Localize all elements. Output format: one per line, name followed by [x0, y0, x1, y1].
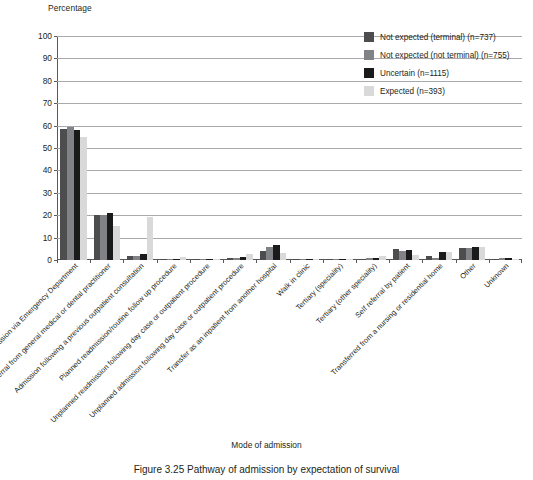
- bar: [479, 247, 486, 260]
- bar: [160, 259, 167, 260]
- bar: [379, 256, 386, 260]
- bar: [233, 258, 240, 260]
- bar: [333, 259, 340, 260]
- y-tick-label: 30: [43, 188, 52, 198]
- x-axis-title: Mode of admission: [0, 440, 533, 450]
- bar: [466, 248, 473, 260]
- bar: [406, 250, 413, 260]
- legend-item: Not expected (terminal) (n=737): [364, 28, 532, 46]
- y-tick-label: 100: [38, 31, 52, 41]
- legend-swatch: [364, 50, 374, 60]
- legend-swatch: [364, 32, 374, 42]
- bar: [67, 127, 74, 260]
- bar: [505, 258, 512, 260]
- legend-item: Not expected (not terminal) (n=755): [364, 46, 532, 64]
- bar: [512, 259, 519, 260]
- y-tick-label: 60: [43, 121, 52, 131]
- legend-label: Expected (n=393): [380, 87, 445, 96]
- x-tick-mark: [389, 260, 390, 263]
- legend-swatch: [364, 68, 374, 78]
- bar: [326, 259, 333, 260]
- bar: [113, 226, 120, 260]
- bar: [373, 258, 380, 260]
- bar-group: [223, 36, 256, 260]
- bar: [193, 259, 200, 260]
- bar: [213, 259, 220, 260]
- bar: [492, 259, 499, 260]
- bar: [293, 259, 300, 260]
- x-tick-mark: [456, 260, 457, 263]
- legend-item: Expected (n=393): [364, 82, 532, 100]
- bar-group: [290, 36, 323, 260]
- bar: [399, 251, 406, 260]
- y-tick-label: 40: [43, 165, 52, 175]
- bar: [140, 254, 147, 260]
- chart-legend: Not expected (terminal) (n=737)Not expec…: [364, 28, 532, 100]
- bar: [393, 249, 400, 260]
- x-tick-mark: [223, 260, 224, 263]
- bar: [339, 259, 346, 260]
- bar: [60, 129, 67, 260]
- bar: [133, 256, 140, 260]
- x-tick-mark: [521, 260, 522, 263]
- bar: [306, 259, 313, 260]
- bar: [366, 258, 373, 260]
- chart-figure: Percentage 0102030405060708090100 Admiss…: [0, 0, 533, 480]
- bar: [300, 259, 307, 260]
- bar: [167, 259, 174, 260]
- x-tick-mark: [323, 260, 324, 263]
- legend-item: Uncertain (n=1115): [364, 64, 532, 82]
- bar: [94, 215, 101, 260]
- x-tick-mark: [57, 260, 58, 263]
- x-tick-mark: [123, 260, 124, 263]
- y-tick-label: 10: [43, 233, 52, 243]
- x-tick-mark: [90, 260, 91, 263]
- bar-group: [57, 36, 90, 260]
- bar: [127, 256, 134, 260]
- bar: [313, 259, 320, 260]
- y-tick-label: 50: [43, 143, 52, 153]
- bar: [280, 253, 287, 260]
- bar-group: [190, 36, 223, 260]
- bar: [459, 248, 466, 260]
- bar: [499, 258, 506, 260]
- bar: [273, 245, 280, 260]
- y-tick-label: 0: [47, 255, 52, 265]
- bar-group: [157, 36, 190, 260]
- bar: [227, 258, 234, 260]
- legend-label: Uncertain (n=1115): [380, 69, 449, 78]
- bar: [206, 259, 213, 260]
- legend-label: Not expected (terminal) (n=737): [380, 33, 496, 42]
- y-tick-label: 80: [43, 76, 52, 86]
- bar: [260, 251, 267, 260]
- x-tick-label: Unknown: [483, 262, 511, 290]
- bar: [180, 257, 187, 260]
- bar-group: [323, 36, 356, 260]
- x-tick-mark: [422, 260, 423, 263]
- y-axis-title: Percentage: [48, 3, 92, 13]
- x-tick-mark: [290, 260, 291, 263]
- bar: [100, 215, 107, 260]
- x-tick-mark: [157, 260, 158, 263]
- x-tick-label: Unplanned admission following day case o…: [88, 262, 246, 420]
- bar: [446, 252, 453, 261]
- bar: [359, 259, 366, 260]
- legend-swatch: [364, 86, 374, 96]
- x-tick-label: Other: [459, 262, 478, 281]
- bar: [240, 257, 247, 260]
- legend-label: Not expected (not terminal) (n=755): [380, 51, 509, 60]
- figure-caption: Figure 3.25 Pathway of admission by expe…: [0, 464, 533, 475]
- bar-group: [123, 36, 156, 260]
- bar: [472, 247, 479, 260]
- x-tick-label: Tertiary (other speciality): [315, 262, 379, 326]
- bar: [147, 217, 154, 260]
- bar: [426, 256, 433, 260]
- bar: [246, 254, 253, 260]
- bar: [439, 252, 446, 260]
- x-tick-mark: [190, 260, 191, 263]
- bar-group: [90, 36, 123, 260]
- x-tick-label: Unplanned readmission following day case…: [50, 262, 213, 425]
- bar: [412, 255, 419, 260]
- bar: [80, 137, 87, 260]
- bar-group: [256, 36, 289, 260]
